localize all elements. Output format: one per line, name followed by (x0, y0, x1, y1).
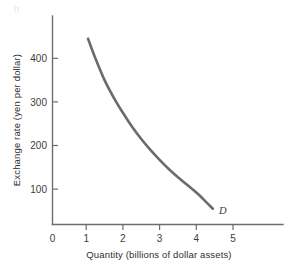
y-tick-label-100: 100 (30, 184, 47, 195)
x-tick-label-3: 3 (157, 233, 163, 244)
demand-curve-line (88, 39, 213, 209)
y-axis-title: Exchange rate (yen per dollar) (11, 54, 22, 186)
x-tick-label-2: 2 (120, 233, 126, 244)
y-tick-label-200: 200 (30, 140, 47, 151)
chart-figure: b 400 300 200 100 0 1 2 3 4 (0, 0, 292, 266)
x-tick-label-0: 0 (50, 233, 56, 244)
demand-curve-chart: 400 300 200 100 0 1 2 3 4 5 D Quantity (… (0, 0, 292, 266)
x-tick-label-1: 1 (83, 233, 89, 244)
curve-label-d: D (218, 205, 227, 216)
y-tick-label-400: 400 (30, 53, 47, 64)
x-tick-label-4: 4 (194, 233, 200, 244)
x-axis-title: Quantity (billions of dollar assets) (86, 249, 231, 260)
y-axis-ticks (53, 58, 59, 189)
x-axis-ticks (86, 225, 233, 231)
y-tick-label-300: 300 (30, 97, 47, 108)
x-tick-label-5: 5 (230, 233, 236, 244)
